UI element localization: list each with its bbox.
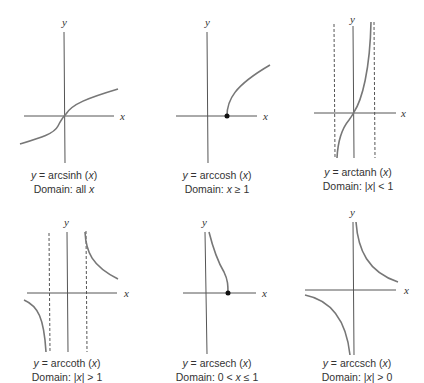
arcsech-curve (209, 232, 228, 293)
y-axis-label: y (204, 16, 210, 28)
x-axis-label: x (403, 284, 409, 296)
domain-label: Domain: all x (14, 182, 114, 196)
panel-arctanh: y x (314, 13, 406, 158)
y-axis (207, 32, 208, 163)
panel-arcsech: y x (183, 216, 267, 354)
var-y: y (31, 169, 36, 181)
panel-arccosh: y x (176, 16, 270, 163)
domain-label: Domain: |x| > 0 (302, 370, 412, 383)
endpoint-marker (225, 114, 230, 119)
y-axis-label: y (63, 216, 69, 228)
caption-arctanh: y = arctanh (x) Domain: |x| < 1 (308, 165, 408, 193)
caption-arcsech: y = arcsech (x) Domain: 0 < x ≤ 1 (162, 356, 272, 383)
y-axis (353, 222, 354, 355)
domain-label: Domain: 0 < x ≤ 1 (162, 370, 272, 383)
x-axis-label: x (400, 107, 406, 119)
x-axis-label: x (262, 110, 268, 122)
domain-label: Domain: |x| < 1 (308, 179, 408, 193)
arccoth-curve-right (85, 232, 118, 279)
y-axis (64, 32, 65, 163)
panel-arcsinh: y x (20, 16, 125, 163)
function-label: y = arccosh (x) (167, 168, 267, 182)
y-axis-label: y (61, 16, 67, 28)
caption-arccoth: y = arccoth (x) Domain: |x| > 1 (17, 356, 117, 383)
arccsch-curve-negative (305, 295, 350, 355)
domain-label: Domain: |x| > 1 (17, 370, 117, 383)
arccosh-curve (227, 65, 270, 116)
function-label: y = arcsinh (x) (14, 168, 114, 182)
function-label: y = arccsch (x) (302, 356, 412, 370)
caption-arcsinh: y = arcsinh (x) Domain: all x (14, 168, 114, 196)
x-axis-label: x (119, 110, 125, 122)
function-label: y = arcsech (x) (162, 356, 272, 370)
function-label: y = arctanh (x) (308, 165, 408, 179)
panel-arccoth: y x (24, 216, 129, 352)
arccsch-curve-positive (356, 222, 398, 282)
function-label: y = arccoth (x) (17, 356, 117, 370)
y-axis (67, 232, 68, 352)
asymptote-right (86, 231, 87, 352)
asymptote-left (334, 24, 335, 158)
domain-label: Domain: x ≥ 1 (167, 182, 267, 196)
x-axis-label: x (123, 287, 129, 299)
y-axis-label: y (201, 216, 207, 228)
panel-arccsch: y x (305, 206, 409, 355)
y-axis-label: y (349, 206, 355, 218)
y-axis (353, 26, 354, 158)
asymptote-right (374, 22, 375, 158)
y-axis-label: y (349, 13, 355, 25)
caption-arccosh: y = arccosh (x) Domain: x ≥ 1 (167, 168, 267, 196)
caption-arccsch: y = arccsch (x) Domain: |x| > 0 (302, 356, 412, 383)
arccoth-curve-left (24, 300, 46, 352)
endpoint-marker (226, 291, 231, 296)
x-axis-label: x (261, 287, 267, 299)
